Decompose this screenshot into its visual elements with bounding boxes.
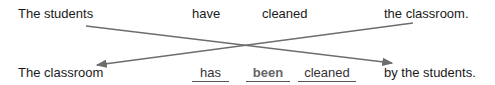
blank-been: been [246,65,290,82]
active-object: the classroom. [384,6,469,21]
passive-agent: by the students. [384,65,476,80]
active-verb: cleaned [262,6,308,21]
arrow-object-to-subject [97,23,413,65]
passive-subject: The classroom [18,65,103,80]
blank-cleaned: cleaned [298,65,356,82]
active-subject: The students [18,6,93,21]
active-auxiliary: have [192,6,220,21]
blank-has: has [192,65,229,82]
